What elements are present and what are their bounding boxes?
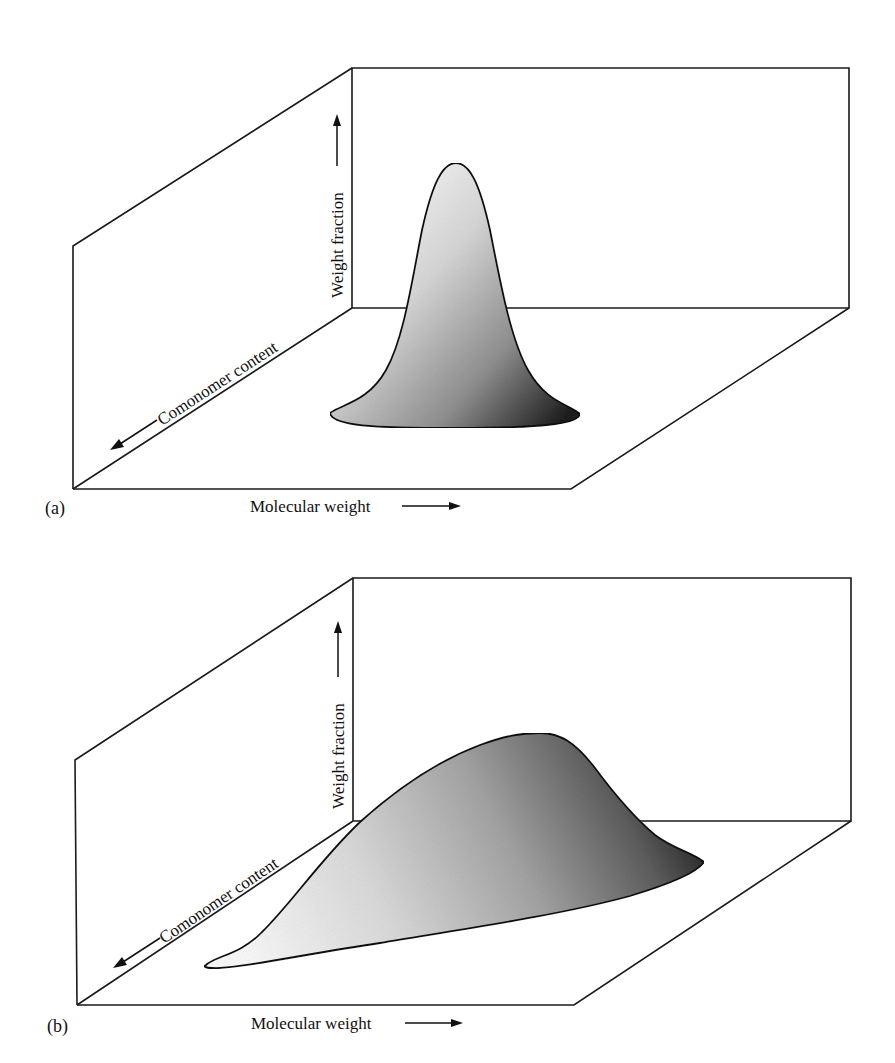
panel-b-comonomer-content-arrow	[123, 938, 160, 962]
panel-a-comonomer-content-arrow	[120, 420, 157, 444]
panel-a-weight-fraction-label: Weight fraction	[328, 192, 347, 298]
panel-b-label: (b)	[47, 1016, 68, 1037]
panel-b-molecular-weight-label: Molecular weight	[251, 1014, 372, 1033]
arrow-right-icon	[451, 1019, 463, 1027]
arrow-down-left-icon	[110, 439, 124, 450]
arrow-down-left-icon	[113, 957, 127, 968]
arrow-up-icon	[334, 621, 342, 633]
panel-a-floor-diagonal	[73, 308, 352, 489]
panel-a-left-wall	[73, 68, 352, 489]
panel-b-weight-fraction-label: Weight fraction	[329, 703, 348, 809]
panel-a-distribution-surface	[330, 163, 580, 428]
panel-a-comonomer-content-label: Comonomer content	[154, 337, 281, 429]
panel-b-distribution-surface	[205, 733, 704, 968]
panel-a: Weight fraction Comonomer content Molecu…	[45, 68, 849, 519]
arrow-up-icon	[333, 114, 341, 126]
panel-a-molecular-weight-label: Molecular weight	[250, 497, 371, 516]
figure: Weight fraction Comonomer content Molecu…	[0, 0, 895, 1063]
arrow-right-icon	[449, 502, 461, 510]
panel-a-label: (a)	[45, 498, 65, 519]
panel-b: Weight fraction Comonomer content Molecu…	[47, 578, 851, 1037]
